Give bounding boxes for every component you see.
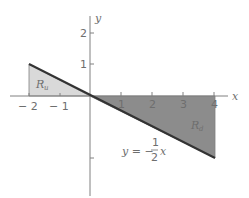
x-axis-label: x — [232, 90, 239, 103]
y-axis-label: y — [94, 12, 102, 25]
svg-text:x: x — [160, 145, 167, 158]
svg-text:1: 1 — [152, 136, 159, 149]
region-r-u-subscript: u — [44, 84, 49, 92]
x-tick-label: 2 — [149, 98, 156, 111]
equation-label: y = − 1 2 x — [121, 136, 167, 164]
y-tick-label: 1 — [80, 58, 87, 71]
x-tick-label: 1 — [118, 98, 125, 111]
region-r-u-label: R — [35, 78, 44, 91]
x-tick-label: 3 — [180, 98, 187, 111]
region-r-d-subscript: d — [199, 125, 204, 133]
y-tick-label: 2 — [80, 27, 87, 40]
x-tick-label: − 2 — [18, 100, 38, 113]
x-tick-label: 4 — [211, 98, 218, 111]
region-r-d-label: R — [190, 119, 199, 132]
graph-canvas: − 2 − 1 1 2 3 4 1 2 x y R u R d y = − 1 … — [0, 0, 249, 198]
svg-text:y = −: y = − — [121, 145, 154, 158]
svg-text:2: 2 — [151, 151, 158, 164]
x-tick-label: − 1 — [49, 100, 69, 113]
